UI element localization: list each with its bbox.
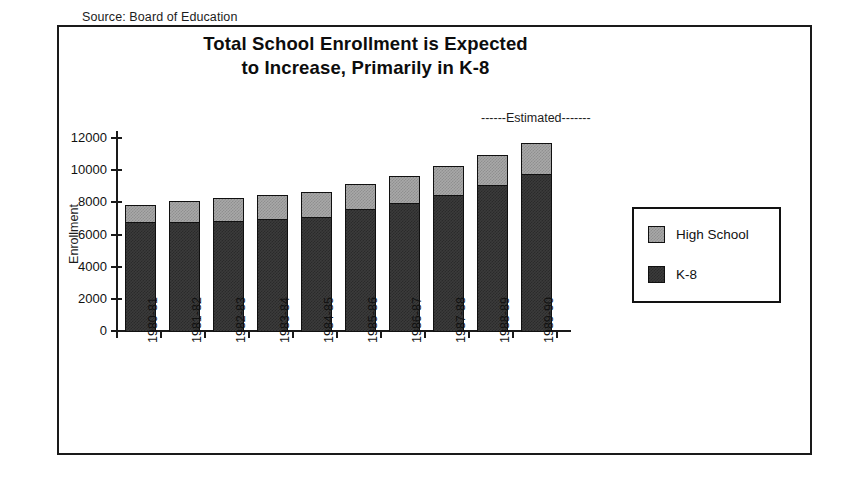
legend-item-k8: K-8 bbox=[648, 266, 697, 283]
bar-segment-high-school[interactable] bbox=[125, 205, 156, 224]
x-tick bbox=[248, 330, 250, 338]
y-tick bbox=[111, 201, 122, 203]
legend-swatch-high-school-icon bbox=[648, 226, 665, 243]
x-tick bbox=[380, 330, 382, 338]
y-tick-label: 0 bbox=[100, 323, 107, 338]
x-tick-label: 1988-89 bbox=[477, 343, 508, 357]
y-tick-label: 8000 bbox=[78, 194, 107, 209]
x-tick bbox=[424, 330, 426, 338]
x-tick-label: 1986-87 bbox=[389, 343, 420, 357]
plot-area: Enrollment 120001000080006000400020000 1… bbox=[116, 137, 571, 330]
x-tick bbox=[204, 330, 206, 338]
x-tick-label: 1985-86 bbox=[345, 343, 376, 357]
estimated-annotation: ------Estimated------- bbox=[481, 111, 591, 125]
x-tick-label: 1981-82 bbox=[169, 343, 200, 357]
x-tick-label: 1989-90 bbox=[521, 343, 552, 357]
bar-segment-high-school[interactable] bbox=[477, 155, 508, 187]
bar-segment-high-school[interactable] bbox=[345, 184, 376, 211]
source-note: Source: Board of Education bbox=[82, 10, 237, 24]
y-tick-label: 4000 bbox=[78, 258, 107, 273]
legend-label-k8: K-8 bbox=[676, 267, 697, 282]
y-tick bbox=[111, 169, 122, 171]
legend: High School K-8 bbox=[632, 207, 781, 303]
chart-title: Total School Enrollment is Expected to I… bbox=[0, 32, 849, 81]
chart-title-line-1: Total School Enrollment is Expected bbox=[0, 32, 731, 56]
y-tick bbox=[111, 137, 122, 139]
chart-title-line-2: to Increase, Primarily in K-8 bbox=[0, 56, 731, 80]
bar-segment-high-school[interactable] bbox=[389, 176, 420, 204]
x-tick bbox=[512, 330, 514, 338]
bar-segment-high-school[interactable] bbox=[521, 143, 552, 175]
x-tick bbox=[468, 330, 470, 338]
legend-item-high-school: High School bbox=[648, 226, 749, 243]
y-tick-label: 2000 bbox=[78, 290, 107, 305]
bar-segment-high-school[interactable] bbox=[169, 201, 200, 224]
bar-segment-high-school[interactable] bbox=[213, 198, 244, 222]
x-tick bbox=[116, 330, 118, 338]
y-tick bbox=[111, 234, 122, 236]
bar-segment-high-school[interactable] bbox=[257, 195, 288, 221]
x-tick-label: 1982-83 bbox=[213, 343, 244, 357]
legend-swatch-k8-icon bbox=[648, 266, 665, 283]
x-tick bbox=[336, 330, 338, 338]
x-tick bbox=[160, 330, 162, 338]
x-tick-label: 1987-88 bbox=[433, 343, 464, 357]
y-tick bbox=[111, 298, 122, 300]
x-tick bbox=[292, 330, 294, 338]
bar-segment-high-school[interactable] bbox=[301, 192, 332, 219]
legend-label-high-school: High School bbox=[676, 227, 749, 242]
y-tick-label: 12000 bbox=[71, 130, 107, 145]
bar-segment-high-school[interactable] bbox=[433, 166, 464, 197]
x-tick-label: 1984-85 bbox=[301, 343, 332, 357]
x-tick-label: 1983-84 bbox=[257, 343, 288, 357]
y-axis-line bbox=[116, 131, 118, 330]
y-tick-label: 10000 bbox=[71, 162, 107, 177]
x-tick-label: 1980-81 bbox=[125, 343, 156, 357]
x-tick bbox=[556, 330, 558, 338]
y-tick bbox=[111, 266, 122, 268]
y-tick-label: 6000 bbox=[78, 226, 107, 241]
